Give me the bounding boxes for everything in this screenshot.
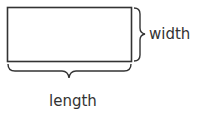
rectangle-shape — [8, 8, 132, 62]
length-label: length — [49, 92, 97, 110]
rectangle-dimensions-diagram: width length — [0, 0, 197, 120]
width-label: width — [149, 25, 190, 43]
width-brace-icon — [134, 8, 145, 61]
length-brace-icon — [8, 64, 131, 78]
